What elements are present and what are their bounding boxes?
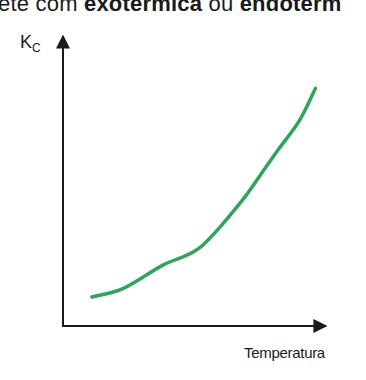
x-axis-label: Temperatura <box>244 344 325 361</box>
chart-plot <box>0 0 366 380</box>
kc-curve <box>92 88 316 297</box>
